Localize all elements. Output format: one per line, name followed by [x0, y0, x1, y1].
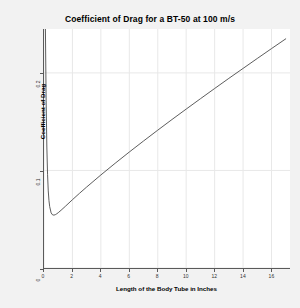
x-tick-mark	[43, 269, 44, 272]
x-tick-label: 8	[150, 273, 164, 279]
x-tick-mark	[129, 269, 130, 272]
plot-area	[43, 29, 290, 269]
x-tick-label: 16	[264, 273, 278, 279]
x-axis-label: Length of the Body Tube in Inches	[43, 285, 290, 292]
x-tick-label: 4	[93, 273, 107, 279]
chart-figure: Coefficient of Drag for a BT-50 at 100 m…	[0, 0, 300, 308]
chart-title: Coefficient of Drag for a BT-50 at 100 m…	[0, 14, 300, 24]
x-tick-mark	[214, 269, 215, 272]
x-tick-label: 14	[236, 273, 250, 279]
x-tick-label: 12	[207, 273, 221, 279]
x-tick-mark	[243, 269, 244, 272]
x-tick-mark	[157, 269, 158, 272]
y-tick-label: 0.1	[35, 171, 41, 193]
x-tick-label: 6	[122, 273, 136, 279]
x-tick-label: 2	[65, 273, 79, 279]
x-tick-mark	[271, 269, 272, 272]
x-tick-label: 10	[179, 273, 193, 279]
x-tick-mark	[72, 269, 73, 272]
x-tick-mark	[100, 269, 101, 272]
y-axis-label: Coefficient of Drag	[39, 67, 46, 157]
drag-curve	[44, 29, 290, 268]
y-tick-label: 0	[35, 269, 41, 291]
x-tick-mark	[186, 269, 187, 272]
